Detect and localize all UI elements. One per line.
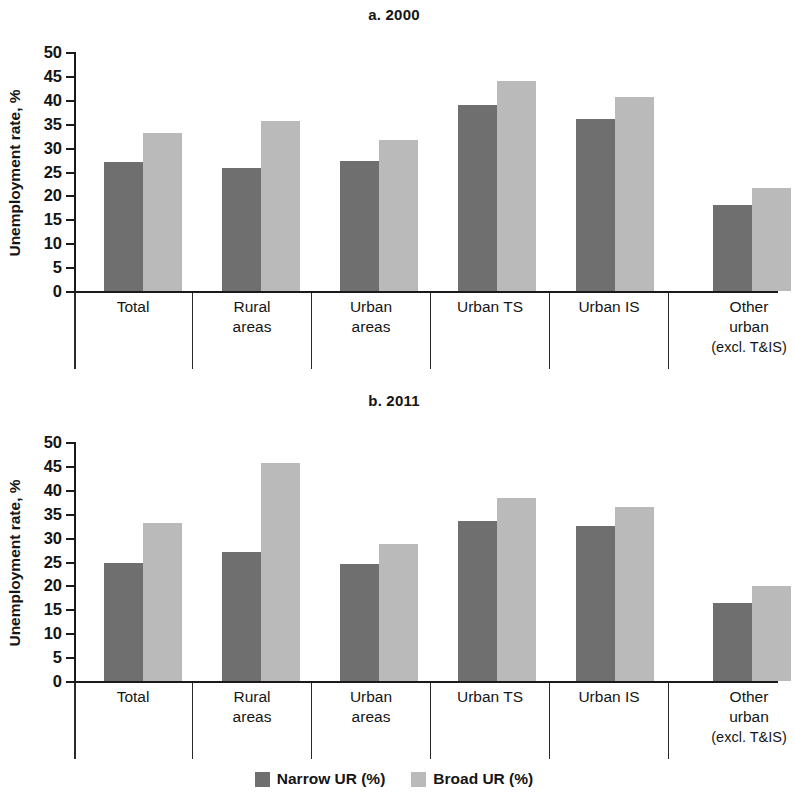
bar [497, 81, 536, 291]
y-tick-mark [66, 219, 74, 221]
legend-item-broad: Broad UR (%) [411, 770, 533, 788]
legend-swatch-narrow [255, 772, 270, 787]
plot-area-2011: 05101520253035404550 [74, 442, 778, 681]
category-label-cell: Otherurban(excl. T&IS) [669, 293, 795, 369]
y-tick-mark [66, 148, 74, 150]
bar-group [206, 52, 316, 291]
category-labels-2011: TotalRuralareasUrbanareasUrban TSUrban I… [74, 683, 780, 759]
y-tick-mark [66, 681, 74, 683]
y-tick-label: 20 [44, 186, 62, 205]
bar-group [676, 52, 795, 291]
bar-group [442, 52, 552, 291]
legend-swatch-broad [411, 772, 426, 787]
y-tick-mark [66, 609, 74, 611]
y-tick-label: 15 [44, 210, 62, 229]
y-tick-label: 25 [44, 552, 62, 571]
y-tick-label: 35 [44, 114, 62, 133]
legend-item-narrow: Narrow UR (%) [255, 770, 386, 788]
category-label-cell: Total [74, 683, 193, 759]
y-axis-label-2000: Unemployment rate, % [2, 48, 28, 298]
y-tick-label: 10 [44, 624, 62, 643]
panel-title-2011: b. 2011 [0, 392, 788, 409]
y-tick-label: 40 [44, 480, 62, 499]
category-label-line: Total [117, 297, 150, 317]
category-label-cell: Urban TS [431, 683, 550, 759]
category-label-cell: Ruralareas [193, 293, 312, 369]
category-label-line: (excl. T&IS) [711, 337, 786, 357]
chart-panel-2011: b. 2011 Unemployment rate, % 05101520253… [0, 390, 788, 790]
category-label-line: Total [117, 687, 150, 707]
bar-group [88, 52, 198, 291]
category-label-cell: Urbanareas [312, 683, 431, 759]
category-label-line: Urban IS [578, 297, 639, 317]
y-tick-label: 50 [44, 433, 62, 452]
category-label-line: Urban TS [457, 687, 523, 707]
bars-container-2011 [76, 442, 778, 681]
y-tick-label: 30 [44, 138, 62, 157]
bar [576, 119, 615, 291]
bar [576, 526, 615, 681]
y-tick-mark [66, 490, 74, 492]
bar [261, 463, 300, 681]
y-axis-label-text: Unemployment rate, % [6, 479, 24, 646]
y-tick-mark [66, 514, 74, 516]
bar [379, 544, 418, 681]
category-label-line: Urban TS [457, 297, 523, 317]
y-tick-label: 50 [44, 43, 62, 62]
bar [752, 188, 791, 291]
y-tick-label: 0 [53, 282, 62, 301]
y-tick-mark [66, 585, 74, 587]
y-tick-label: 40 [44, 90, 62, 109]
y-tick-mark [66, 538, 74, 540]
y-tick-label: 0 [53, 672, 62, 691]
y-tick-mark [66, 657, 74, 659]
bar-group [560, 52, 670, 291]
y-tick-label: 5 [53, 258, 62, 277]
legend-label: Broad UR (%) [433, 770, 533, 788]
bar-group [206, 442, 316, 681]
category-label-line: urban [729, 317, 769, 337]
y-tick-mark [66, 466, 74, 468]
category-label-cell: Ruralareas [193, 683, 312, 759]
y-tick-label: 45 [44, 456, 62, 475]
bar [222, 168, 261, 291]
bar [713, 603, 752, 681]
bar [752, 586, 791, 681]
bar [379, 140, 418, 291]
y-tick-mark [66, 76, 74, 78]
bar [143, 523, 182, 681]
bars-container-2000 [76, 52, 778, 291]
y-tick-mark [66, 633, 74, 635]
category-label-line: Rural [233, 687, 270, 707]
category-label-line: areas [352, 707, 391, 727]
bar [104, 563, 143, 681]
bar [458, 105, 497, 291]
category-label-line: Other [730, 297, 769, 317]
y-tick-mark [66, 291, 74, 293]
y-tick-label: 45 [44, 66, 62, 85]
bar [615, 97, 654, 291]
category-label-line: areas [233, 707, 272, 727]
plot-area-2000: 05101520253035404550 [74, 52, 778, 291]
bar-group [442, 442, 552, 681]
panel-title-2000: a. 2000 [0, 6, 788, 23]
bar [458, 521, 497, 681]
bar [713, 205, 752, 291]
category-label-cell: Otherurban(excl. T&IS) [669, 683, 795, 759]
bar [261, 121, 300, 291]
category-label-line: Urban [350, 687, 392, 707]
category-label-cell: Urbanareas [312, 293, 431, 369]
chart-legend: Narrow UR (%)Broad UR (%) [0, 770, 788, 788]
bar [340, 161, 379, 291]
category-label-line: (excl. T&IS) [711, 727, 786, 747]
y-tick-mark [66, 562, 74, 564]
y-tick-label: 20 [44, 576, 62, 595]
bar-group [88, 442, 198, 681]
category-label-cell: Urban IS [550, 683, 669, 759]
y-tick-mark [66, 442, 74, 444]
bar [615, 507, 654, 681]
category-label-line: urban [729, 707, 769, 727]
y-tick-label: 15 [44, 600, 62, 619]
bar-group [324, 442, 434, 681]
